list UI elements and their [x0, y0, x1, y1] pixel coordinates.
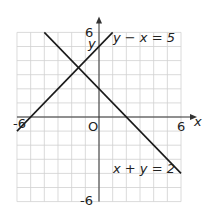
origin-label: O: [88, 119, 98, 134]
x-tick-right: 6: [177, 119, 185, 134]
x-tick-left: -6: [13, 116, 26, 131]
y-axis-arrow-icon: [96, 16, 102, 23]
series-line-1: [17, 32, 113, 131]
x-axis-label: x: [193, 114, 202, 129]
graph: y x 6 -6 -6 6 O y − x = 5 x + y = 2: [0, 0, 210, 216]
y-tick-top: 6: [85, 25, 93, 40]
series-label-1: y − x = 5: [112, 30, 175, 45]
series-label-2: x + y = 2: [112, 161, 175, 176]
y-tick-bottom: -6: [80, 193, 93, 208]
